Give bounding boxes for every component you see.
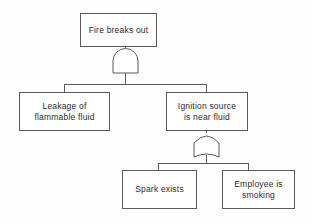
event-box-leakage[interactable]: Leakage of flammable fluid	[19, 92, 110, 131]
connector-to-smoking	[248, 163, 249, 170]
connector-orgate-stem	[206, 155, 207, 163]
connector-andgate-stem	[125, 73, 126, 84]
event-label-spark: Spark exists	[125, 184, 194, 195]
event-box-ignition[interactable]: Ignition source is near fluid	[166, 92, 248, 131]
connector-orgate-distribution-bar	[158, 163, 248, 164]
connector-to-ignition	[206, 84, 207, 92]
event-label-top-event: Fire breaks out	[83, 25, 154, 36]
or-gate-icon[interactable]	[191, 131, 222, 158]
and-gate-icon[interactable]	[110, 47, 141, 74]
event-box-smoking[interactable]: Employee is smoking	[222, 170, 295, 209]
event-box-spark[interactable]: Spark exists	[122, 170, 197, 209]
event-label-leakage: Leakage of flammable fluid	[22, 101, 107, 123]
connector-to-leakage	[64, 84, 65, 92]
connector-to-spark	[158, 163, 159, 170]
fault-tree-diagram: Fire breaks out Leakage of flammable flu…	[0, 0, 312, 224]
event-label-ignition: Ignition source is near fluid	[169, 101, 245, 123]
connector-andgate-distribution-bar	[64, 84, 206, 85]
event-box-top-event[interactable]: Fire breaks out	[80, 13, 157, 47]
event-label-smoking: Employee is smoking	[225, 179, 292, 201]
